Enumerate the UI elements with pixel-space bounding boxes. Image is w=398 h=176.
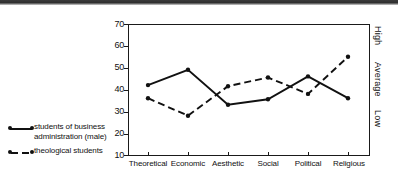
- y-tick-label-40: 40: [98, 85, 124, 94]
- legend-label-theological-students: theological students: [34, 146, 103, 156]
- y-tick-label-60: 60: [98, 41, 124, 50]
- y-tick-label-50: 50: [98, 63, 124, 72]
- legend-key-dashed-line: [8, 147, 34, 157]
- y-tick-mark-50: [124, 68, 129, 69]
- x-tick-mark-political: [308, 152, 309, 156]
- right-axis-label-low: Low: [373, 110, 382, 127]
- legend-label-line2: administration (male): [34, 132, 107, 142]
- legend-label-line1: theological students: [34, 146, 103, 156]
- y-tick-label-30: 30: [98, 107, 124, 116]
- x-tick-mark-economic: [188, 152, 189, 156]
- plot-area-frame: [128, 24, 370, 156]
- y-tick-mark-70: [124, 24, 129, 25]
- legend-label-line1: students of business: [34, 122, 107, 132]
- legend: students of business administration (mal…: [8, 122, 126, 162]
- x-tick-mark-social: [268, 152, 269, 156]
- legend-item-theological-students: theological students: [8, 146, 126, 157]
- right-axis-label-high: High: [373, 26, 382, 45]
- legend-key-solid-line: [8, 123, 34, 133]
- legend-label-business-administration: students of business administration (mal…: [34, 122, 107, 141]
- y-tick-mark-40: [124, 90, 129, 91]
- line-chart: 70 60 50 40 30 20 10 Theoretical Economi…: [0, 0, 398, 176]
- y-tick-mark-60: [124, 46, 129, 47]
- y-tick-label-70: 70: [98, 20, 124, 29]
- x-tick-mark-religious: [348, 152, 349, 156]
- x-tick-label-religious: Religious: [322, 160, 376, 168]
- legend-item-business-administration: students of business administration (mal…: [8, 122, 126, 141]
- right-axis-label-average: Average: [373, 62, 382, 97]
- x-tick-mark-theoretical: [148, 152, 149, 156]
- x-tick-mark-aesthetic: [228, 152, 229, 156]
- y-tick-mark-30: [124, 112, 129, 113]
